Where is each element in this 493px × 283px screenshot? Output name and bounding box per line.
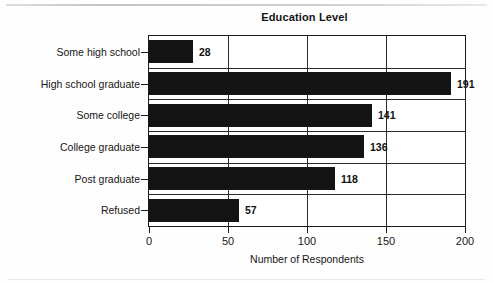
scan-artifact-top <box>6 4 487 6</box>
bar[interactable] <box>149 167 335 190</box>
bar[interactable] <box>149 72 451 95</box>
bar-row <box>149 104 465 127</box>
x-axis-tick <box>149 227 150 233</box>
scan-artifact-bottom <box>8 279 485 280</box>
gridline-horizontal <box>149 99 465 100</box>
y-axis-label: Some college <box>76 109 140 121</box>
x-axis-tick-label: 100 <box>298 235 316 247</box>
y-axis-label: Post graduate <box>75 173 140 185</box>
chart-title: Education Level <box>0 11 493 23</box>
x-axis-tick <box>307 227 308 233</box>
y-axis-tick <box>141 115 148 116</box>
y-axis-label: Refused <box>101 204 140 216</box>
bar-row <box>149 199 465 222</box>
bar[interactable] <box>149 135 364 158</box>
x-axis-tick-label: 150 <box>377 235 395 247</box>
bar-row <box>149 72 465 95</box>
bar[interactable] <box>149 104 372 127</box>
chart-title-text: Education Level <box>261 11 348 23</box>
x-axis-tick <box>386 227 387 233</box>
bar[interactable] <box>149 199 239 222</box>
plot-area <box>148 35 466 227</box>
bar-value-label: 57 <box>245 204 257 216</box>
y-axis-label: Some high school <box>57 46 140 58</box>
gridline-horizontal <box>149 68 465 69</box>
x-axis-tick <box>465 227 466 233</box>
y-axis-label: High school graduate <box>41 78 140 90</box>
y-axis-label: College graduate <box>60 141 140 153</box>
x-axis-title: Number of Respondents <box>148 253 466 265</box>
bar-chart-figure: Education Level 28Some high school191Hig… <box>0 0 493 283</box>
y-axis-tick <box>141 52 148 53</box>
bar-value-label: 191 <box>457 78 475 90</box>
gridline-horizontal <box>149 163 465 164</box>
bar-row <box>149 167 465 190</box>
bar-row <box>149 135 465 158</box>
y-axis-tick <box>141 147 148 148</box>
bar-value-label: 28 <box>199 46 211 58</box>
x-axis-tick-label: 0 <box>146 235 152 247</box>
x-axis-tick-label: 200 <box>456 235 474 247</box>
bar-value-label: 141 <box>378 109 396 121</box>
y-axis-tick <box>141 210 148 211</box>
bar-value-label: 136 <box>370 141 388 153</box>
bar[interactable] <box>149 40 193 63</box>
y-axis-tick <box>141 84 148 85</box>
gridline-horizontal <box>149 131 465 132</box>
y-axis-tick <box>141 179 148 180</box>
bar-row <box>149 40 465 63</box>
x-axis-tick-label: 50 <box>222 235 234 247</box>
x-axis-tick <box>228 227 229 233</box>
bar-value-label: 118 <box>341 173 358 185</box>
gridline-horizontal <box>149 194 465 195</box>
